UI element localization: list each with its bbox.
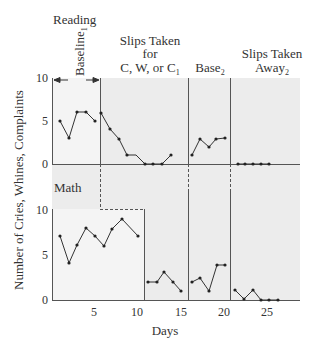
svg-text:5: 5 <box>91 305 97 319</box>
reading-title: Reading <box>53 12 97 27</box>
slips-away-label-line1: Slips Taken <box>242 46 303 61</box>
svg-text:5: 5 <box>42 114 48 128</box>
y-tick-labels: 10 5 0 10 5 0 <box>36 71 48 307</box>
svg-text:10: 10 <box>131 305 143 319</box>
svg-text:20: 20 <box>218 305 230 319</box>
slips-taken-label-line3: C, W, or C1 <box>120 60 179 77</box>
slips-taken-label-line2: for <box>142 46 158 61</box>
base2-label: Base2 <box>195 60 224 77</box>
svg-text:10: 10 <box>36 71 48 85</box>
y-axis-title: Number of Cries, Whines, Complaints <box>11 90 26 290</box>
x-tick-labels: 5 10 15 20 25 <box>91 305 273 319</box>
svg-text:25: 25 <box>261 305 273 319</box>
svg-text:15: 15 <box>175 305 187 319</box>
svg-text:5: 5 <box>42 248 48 262</box>
x-axis-title: Days <box>152 323 179 338</box>
baseline-label: Baseline1 <box>72 27 89 76</box>
svg-text:0: 0 <box>42 157 48 171</box>
slips-away-label-line2: Away2 <box>255 60 289 77</box>
math-title: Math <box>54 180 82 195</box>
svg-text:10: 10 <box>36 203 48 217</box>
svg-text:0: 0 <box>42 293 48 307</box>
multiple-baseline-chart: Reading Baseline1 Slips Taken for C, W, … <box>0 0 319 352</box>
